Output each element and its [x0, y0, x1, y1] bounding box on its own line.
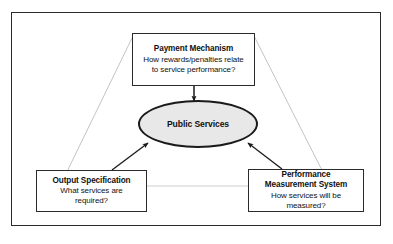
- node-payment-mechanism-title: Payment Mechanism: [154, 44, 233, 54]
- node-public-services[interactable]: Public Services: [138, 100, 258, 148]
- thin-line-payment-to-output: [60, 36, 133, 186]
- thin-line-payment-to-performance: [254, 36, 330, 186]
- node-performance-measurement-system-title-line-2: Measurement System: [265, 180, 347, 190]
- node-payment-mechanism[interactable]: Payment Mechanism How rewards/penalties …: [132, 33, 255, 86]
- node-performance-measurement-system-title-line-1: Performance: [282, 170, 331, 180]
- arrow-performance-to-public-services: [248, 143, 282, 169]
- diagram-root: Payment Mechanism How rewards/penalties …: [0, 0, 393, 244]
- node-performance-measurement-system-line-2: measured?: [286, 201, 325, 211]
- node-public-services-label: Public Services: [167, 119, 229, 129]
- node-output-specification-title: Output Specification: [52, 176, 130, 186]
- node-performance-measurement-system[interactable]: Performance Measurement System How servi…: [248, 169, 364, 212]
- node-output-specification-line-2: required?: [75, 196, 108, 206]
- node-payment-mechanism-line-1: How rewards/penalties relate: [143, 55, 243, 65]
- node-output-specification[interactable]: Output Specification What services are r…: [36, 170, 147, 212]
- node-payment-mechanism-line-2: to service performance?: [152, 65, 236, 75]
- arrow-output-to-public-services: [112, 143, 148, 170]
- node-output-specification-line-1: What services are: [60, 186, 122, 196]
- node-performance-measurement-system-line-1: How services will be: [271, 191, 341, 201]
